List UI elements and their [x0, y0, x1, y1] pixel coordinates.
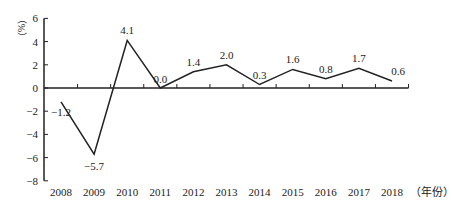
x-tick-label: 2015	[282, 186, 305, 198]
x-tick-label: 2016	[315, 186, 338, 198]
data-label: 2.0	[220, 49, 234, 61]
data-label: −1.2	[51, 106, 71, 118]
x-tick-label: 2010	[116, 186, 139, 198]
y-tick-label: −2	[26, 105, 38, 117]
y-tick-label: −4	[26, 128, 38, 140]
data-label: 1.4	[187, 56, 201, 68]
y-tick-label: 6	[33, 12, 39, 24]
data-label: 1.6	[286, 53, 300, 65]
line-chart: 6420−2−4−6−8（%） 200820092010201120122013…	[0, 0, 456, 210]
data-label: 0.6	[391, 65, 405, 77]
x-tick-label: 2017	[348, 186, 371, 198]
y-axis-label: （%）	[16, 14, 27, 42]
x-tick-label: 2013	[216, 186, 239, 198]
x-tick-label: 2018	[381, 186, 404, 198]
x-tick-label: 2008	[50, 186, 73, 198]
data-label: 0.8	[319, 63, 333, 75]
x-tick-label: 2011	[150, 186, 172, 198]
data-label: 4.1	[120, 24, 134, 36]
x-axis: 2008200920102011201220132014201520162017…	[44, 84, 454, 198]
x-tick-label: 2012	[182, 186, 204, 198]
y-tick-label: −8	[26, 175, 38, 187]
data-labels: −1.2−5.74.10.01.42.00.31.60.81.70.6	[51, 24, 405, 172]
x-tick-label: 2014	[249, 186, 272, 198]
y-tick-label: 0	[33, 82, 39, 94]
data-label: −5.7	[84, 160, 104, 172]
data-label: 0.0	[153, 73, 167, 85]
data-label: 1.7	[352, 52, 366, 64]
y-axis: 6420−2−4−6−8（%）	[16, 12, 48, 186]
y-tick-label: 2	[33, 59, 39, 71]
y-tick-label: 4	[33, 36, 39, 48]
x-axis-label: （年份）	[410, 185, 454, 198]
x-tick-label: 2009	[83, 186, 106, 198]
data-label: 0.3	[253, 69, 267, 81]
y-tick-label: −6	[26, 152, 38, 164]
